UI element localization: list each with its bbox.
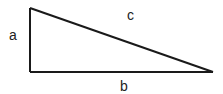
label-b: b	[120, 79, 128, 93]
label-c: c	[127, 8, 134, 22]
side-c	[30, 8, 213, 72]
label-a: a	[9, 28, 17, 42]
triangle-diagram	[0, 0, 223, 94]
